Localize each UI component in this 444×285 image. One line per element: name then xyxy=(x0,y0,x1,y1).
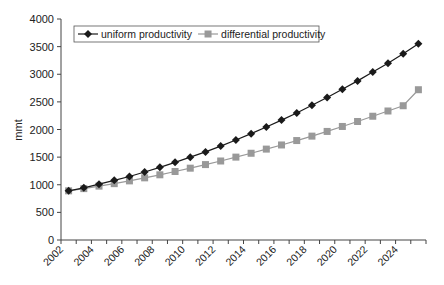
diamond-marker xyxy=(384,59,392,67)
diamond-marker xyxy=(247,130,255,138)
y-tick-label: 2500 xyxy=(30,96,54,108)
square-marker xyxy=(354,118,361,125)
square-marker xyxy=(308,133,315,140)
diamond-marker xyxy=(354,77,362,85)
x-tick-label: 2020 xyxy=(314,243,339,268)
plot-series xyxy=(65,40,423,195)
square-marker xyxy=(232,154,239,161)
x-tick-label: 2008 xyxy=(132,243,157,268)
diamond-marker xyxy=(201,148,209,156)
square-marker xyxy=(415,86,422,93)
square-marker xyxy=(217,157,224,164)
y-tick-label: 1000 xyxy=(30,179,54,191)
x-tick-label: 2016 xyxy=(253,243,278,268)
diamond-marker xyxy=(171,158,179,166)
y-tick-label: 1500 xyxy=(30,151,54,163)
x-tick-label: 2010 xyxy=(162,243,187,268)
y-tick-label: 2000 xyxy=(30,124,54,136)
y-axis: 05001000150020002500300035004000 xyxy=(30,13,61,246)
legend-label: differential productivity xyxy=(221,28,326,40)
series-line xyxy=(69,44,419,191)
x-tick-label: 2012 xyxy=(192,243,217,268)
x-tick-label: 2006 xyxy=(101,243,126,268)
square-marker xyxy=(293,137,300,144)
square-marker xyxy=(187,165,194,172)
diamond-marker xyxy=(232,136,240,144)
square-marker xyxy=(324,128,331,135)
square-marker xyxy=(384,107,391,114)
square-marker xyxy=(369,113,376,120)
legend-square-icon xyxy=(205,31,212,38)
y-tick-label: 0 xyxy=(48,234,54,246)
diamond-marker xyxy=(323,93,331,101)
y-tick-label: 3500 xyxy=(30,41,54,53)
square-marker xyxy=(400,102,407,109)
square-marker xyxy=(278,141,285,148)
square-marker xyxy=(248,150,255,157)
diamond-marker xyxy=(308,101,316,109)
line-chart: 05001000150020002500300035004000 2002200… xyxy=(0,0,444,285)
diamond-marker xyxy=(293,109,301,117)
x-tick-label: 2004 xyxy=(71,243,96,268)
legend: uniform productivitydifferential product… xyxy=(74,26,326,42)
y-tick-label: 500 xyxy=(36,206,54,218)
y-tick-label: 3000 xyxy=(30,68,54,80)
square-marker xyxy=(339,123,346,130)
x-axis: 2002200420062008201020122014201620182020… xyxy=(40,240,426,268)
x-tick-label: 2018 xyxy=(284,243,309,268)
x-tick-label: 2014 xyxy=(223,243,248,268)
square-marker xyxy=(202,161,209,168)
x-tick-label: 2024 xyxy=(375,243,400,268)
diamond-marker xyxy=(156,163,164,171)
diamond-marker xyxy=(217,142,225,150)
x-tick-label: 2022 xyxy=(345,243,370,268)
diamond-marker xyxy=(338,85,346,93)
diamond-marker xyxy=(278,116,286,124)
y-axis-label: mmt xyxy=(12,119,24,140)
diamond-marker xyxy=(414,40,422,48)
diamond-marker xyxy=(186,153,194,161)
legend-label: uniform productivity xyxy=(101,28,193,40)
square-marker xyxy=(156,171,163,178)
diamond-marker xyxy=(369,68,377,76)
diamond-marker xyxy=(262,123,270,131)
series-line xyxy=(69,90,419,191)
x-tick-label: 2002 xyxy=(40,243,65,268)
square-marker xyxy=(263,146,270,153)
diamond-marker xyxy=(399,50,407,58)
y-tick-label: 4000 xyxy=(30,13,54,25)
square-marker xyxy=(172,168,179,175)
